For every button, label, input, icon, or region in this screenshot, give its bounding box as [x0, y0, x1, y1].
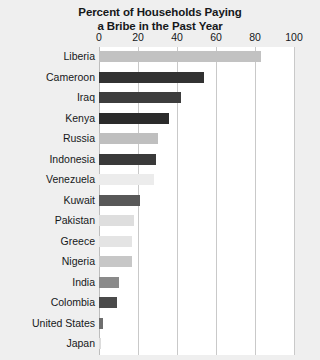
- x-tick-label-100: 100: [285, 31, 303, 43]
- bar-united-states: [99, 318, 103, 329]
- x-tick-label-40: 40: [171, 31, 183, 43]
- bar-india: [99, 277, 119, 288]
- category-label-kenya: Kenya: [65, 112, 95, 124]
- bar-nigeria: [99, 256, 132, 267]
- bar-kenya: [99, 113, 169, 124]
- bar-row: United States: [0, 314, 320, 335]
- bar-russia: [99, 133, 158, 144]
- bar-row: Colombia: [0, 293, 320, 314]
- bar-rows: LiberiaCameroonIraqKenyaRussiaIndonesiaV…: [0, 47, 320, 355]
- x-axis-tick-labels: 020406080100: [0, 31, 320, 45]
- category-label-liberia: Liberia: [63, 50, 95, 62]
- bar-row: Japan: [0, 334, 320, 355]
- category-label-venezuela: Venezuela: [46, 173, 95, 185]
- chart-title: Percent of Households Paying a Bribe in …: [0, 5, 320, 33]
- bar-row: Venezuela: [0, 170, 320, 191]
- category-label-russia: Russia: [63, 132, 95, 144]
- bar-row: Iraq: [0, 88, 320, 109]
- bar-cameroon: [99, 72, 204, 83]
- bar-kuwait: [99, 195, 140, 206]
- bar-greece: [99, 236, 132, 247]
- category-label-united-states: United States: [32, 317, 95, 329]
- category-label-greece: Greece: [61, 235, 95, 247]
- bar-indonesia: [99, 154, 156, 165]
- category-label-colombia: Colombia: [51, 296, 95, 308]
- category-label-indonesia: Indonesia: [49, 153, 95, 165]
- x-tick-label-0: 0: [96, 31, 102, 43]
- category-label-pakistan: Pakistan: [55, 214, 95, 226]
- bar-row: Liberia: [0, 47, 320, 68]
- bar-chart: Percent of Households Paying a Bribe in …: [0, 0, 320, 360]
- bar-row: Kuwait: [0, 191, 320, 212]
- category-label-cameroon: Cameroon: [46, 71, 95, 83]
- category-label-nigeria: Nigeria: [62, 255, 95, 267]
- bar-row: Cameroon: [0, 68, 320, 89]
- bar-liberia: [99, 51, 261, 62]
- x-tick-label-80: 80: [249, 31, 261, 43]
- bar-row: Kenya: [0, 109, 320, 130]
- bar-colombia: [99, 297, 117, 308]
- bar-japan: [99, 338, 101, 349]
- bar-row: India: [0, 273, 320, 294]
- x-tick-label-60: 60: [210, 31, 222, 43]
- category-label-india: India: [72, 276, 95, 288]
- bar-row: Pakistan: [0, 211, 320, 232]
- bar-row: Russia: [0, 129, 320, 150]
- bar-row: Greece: [0, 232, 320, 253]
- bar-row: Indonesia: [0, 150, 320, 171]
- bar-row: Nigeria: [0, 252, 320, 273]
- bar-pakistan: [99, 215, 134, 226]
- bar-venezuela: [99, 174, 154, 185]
- category-label-iraq: Iraq: [77, 91, 95, 103]
- bar-iraq: [99, 92, 181, 103]
- chart-title-line-1: Percent of Households Paying: [0, 5, 320, 19]
- category-label-japan: Japan: [66, 337, 95, 349]
- category-label-kuwait: Kuwait: [63, 194, 95, 206]
- x-tick-label-20: 20: [132, 31, 144, 43]
